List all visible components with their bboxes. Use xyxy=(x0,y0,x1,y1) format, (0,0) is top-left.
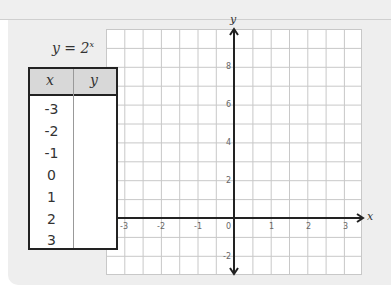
table-row-x: -1 xyxy=(30,145,73,161)
table-row-x: 2 xyxy=(30,211,73,227)
x-tick: 1 xyxy=(269,222,274,231)
header-y: y xyxy=(90,72,98,88)
table-row-x: -2 xyxy=(30,123,73,139)
x-axis-label: x xyxy=(367,210,373,223)
values-table: x y -3 -2 -1 0 1 2 3 xyxy=(28,67,118,250)
x-tick: 2 xyxy=(306,222,311,231)
header-x: x xyxy=(46,72,54,88)
table-row-x: 3 xyxy=(30,232,73,248)
x-tick: -3 xyxy=(120,222,128,231)
y-tick: 6 xyxy=(226,100,231,109)
x-tick: -2 xyxy=(157,222,165,231)
table-row-x: 1 xyxy=(30,189,73,205)
equation-label: y = 2x xyxy=(52,40,94,56)
y-tick: 4 xyxy=(226,138,231,147)
x-tick: 0 xyxy=(226,222,231,231)
table-row-x: 0 xyxy=(30,167,73,183)
x-tick: -1 xyxy=(194,222,202,231)
equation-exponent: x xyxy=(89,40,94,49)
table-row-x: -3 xyxy=(30,101,73,117)
y-axis-label: y xyxy=(230,13,236,26)
y-tick: 8 xyxy=(226,62,231,71)
y-tick: 2 xyxy=(226,176,231,185)
x-tick: 3 xyxy=(343,222,348,231)
column-divider xyxy=(73,69,74,248)
y-tick: -2 xyxy=(223,252,231,261)
